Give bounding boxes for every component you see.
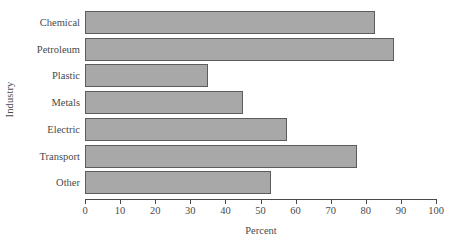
y-axis-title-label: Industry: [5, 82, 16, 118]
bar-fill: [85, 11, 375, 34]
bar-fill: [85, 64, 208, 87]
category-label-plastic: Plastic: [18, 64, 80, 87]
bar-other: [85, 171, 271, 194]
category-label-chemical: Chemical: [18, 11, 80, 34]
x-tick-mark-30: [190, 199, 191, 204]
x-tick-mark-0: [85, 199, 86, 204]
x-tick-label-100: 100: [421, 205, 451, 216]
bar-fill: [85, 171, 271, 194]
x-tick-label-80: 80: [351, 205, 381, 216]
bar-fill: [85, 38, 394, 61]
x-tick-mark-60: [296, 199, 297, 204]
x-tick-label-70: 70: [316, 205, 346, 216]
y-axis-title: Industry: [2, 0, 18, 199]
x-tick-mark-20: [155, 199, 156, 204]
x-tick-mark-90: [401, 199, 402, 204]
bar-fill: [85, 145, 357, 168]
bar-fill: [85, 91, 243, 114]
x-tick-mark-70: [331, 199, 332, 204]
category-label-transport: Transport: [18, 145, 80, 168]
x-tick-mark-40: [225, 199, 226, 204]
x-tick-label-30: 30: [175, 205, 205, 216]
x-tick-label-90: 90: [386, 205, 416, 216]
plot-area: [85, 11, 436, 199]
bar-petroleum: [85, 38, 394, 61]
category-label-petroleum: Petroleum: [18, 38, 80, 61]
x-tick-label-60: 60: [281, 205, 311, 216]
category-label-other: Other: [18, 171, 80, 194]
x-axis-title: Percent: [85, 225, 437, 236]
x-tick-label-50: 50: [246, 205, 276, 216]
x-tick-label-20: 20: [140, 205, 170, 216]
bar-chart: Industry ChemicalPetroleumPlasticMetalsE…: [0, 0, 455, 247]
x-tick-mark-100: [436, 199, 437, 204]
bar-metals: [85, 91, 243, 114]
category-label-electric: Electric: [18, 118, 80, 141]
x-tick-mark-80: [366, 199, 367, 204]
bar-fill: [85, 118, 287, 141]
bar-chemical: [85, 11, 375, 34]
bar-electric: [85, 118, 287, 141]
bar-transport: [85, 145, 357, 168]
bar-plastic: [85, 64, 208, 87]
x-tick-label-0: 0: [70, 205, 100, 216]
x-tick-label-10: 10: [105, 205, 135, 216]
x-tick-mark-50: [261, 199, 262, 204]
category-label-metals: Metals: [18, 91, 80, 114]
x-tick-label-40: 40: [210, 205, 240, 216]
x-tick-mark-10: [120, 199, 121, 204]
